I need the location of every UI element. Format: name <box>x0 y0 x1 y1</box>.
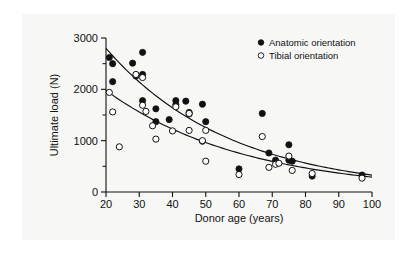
x-axis-tick-label: 40 <box>166 198 178 210</box>
data-point <box>309 170 315 176</box>
data-point <box>110 109 116 115</box>
data-point <box>286 142 292 148</box>
fit-curve <box>106 90 372 177</box>
x-axis-tick-label: 70 <box>266 198 278 210</box>
data-point <box>186 110 192 116</box>
y-axis-tick-label: 3000 <box>74 32 98 44</box>
data-point <box>139 102 145 108</box>
data-point <box>106 54 112 60</box>
data-point <box>266 164 272 170</box>
data-point <box>183 98 189 104</box>
x-axis-tick-label: 30 <box>133 198 145 210</box>
data-point <box>153 106 159 112</box>
x-axis-ticks <box>106 192 372 197</box>
y-axis-tick-label: 0 <box>92 186 98 198</box>
legend: Anatomic orientation Tibial orientation <box>258 37 355 61</box>
data-point <box>173 104 179 110</box>
data-point <box>149 123 155 129</box>
data-point <box>166 117 172 123</box>
data-point <box>236 171 242 177</box>
data-point <box>110 79 116 85</box>
data-point <box>186 127 192 133</box>
data-point <box>359 175 365 181</box>
x-axis-tick-label: 100 <box>363 198 381 210</box>
x-axis-tick-label: 90 <box>333 198 345 210</box>
data-point <box>203 127 209 133</box>
data-point <box>286 153 292 159</box>
data-point <box>139 49 145 55</box>
figure-container: 2030405060708090100 0100020003000 Donor … <box>0 0 417 254</box>
y-axis-title: Ultimate load (N) <box>48 74 60 157</box>
data-point <box>203 158 209 164</box>
data-point <box>259 133 265 139</box>
x-axis-tick-label: 50 <box>200 198 212 210</box>
data-point <box>203 119 209 125</box>
legend-marker-filled-circle <box>258 40 264 46</box>
legend-marker-open-circle <box>258 53 264 59</box>
data-point <box>276 160 282 166</box>
data-point <box>173 98 179 104</box>
data-point <box>259 110 265 116</box>
y-axis-ticks <box>101 38 106 192</box>
x-axis-tick-label: 80 <box>299 198 311 210</box>
data-point <box>116 144 122 150</box>
data-point <box>110 61 116 67</box>
data-point <box>106 89 112 95</box>
y-axis-tick-labels: 0100020003000 <box>74 32 98 198</box>
data-point <box>199 101 205 107</box>
x-axis-tick-label: 60 <box>233 198 245 210</box>
x-axis-tick-label: 20 <box>100 198 112 210</box>
data-point <box>139 74 145 80</box>
data-point <box>153 136 159 142</box>
scatter-plot: 2030405060708090100 0100020003000 Donor … <box>0 0 417 254</box>
data-point <box>199 138 205 144</box>
data-point <box>143 108 149 114</box>
data-point <box>130 60 136 66</box>
data-point <box>266 150 272 156</box>
data-point <box>169 128 175 134</box>
data-point <box>133 71 139 77</box>
legend-label-tibial-orientation: Tibial orientation <box>269 50 338 61</box>
y-axis-tick-label: 1000 <box>74 135 98 147</box>
data-point <box>289 167 295 173</box>
y-axis-tick-label: 2000 <box>74 83 98 95</box>
legend-label-anatomic-orientation: Anatomic orientation <box>269 37 356 48</box>
x-axis-tick-labels: 2030405060708090100 <box>100 198 381 210</box>
x-axis-title: Donor age (years) <box>195 212 284 224</box>
